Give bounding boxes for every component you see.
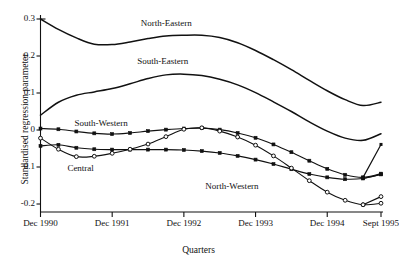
- series-label-central: Central: [67, 164, 94, 173]
- series-line: [41, 74, 382, 140]
- data-point-marker: [308, 159, 311, 162]
- data-point-marker: [254, 143, 258, 147]
- data-point-marker: [236, 154, 239, 157]
- series-label-north-western: North-Western: [205, 182, 258, 191]
- data-point-marker: [57, 147, 61, 151]
- data-point-marker: [379, 201, 383, 205]
- data-point-marker: [218, 129, 222, 133]
- data-point-marker: [272, 154, 276, 158]
- data-point-marker: [254, 158, 257, 161]
- series-label-north-eastern: North-Eastern: [141, 19, 192, 28]
- data-point-marker: [344, 178, 347, 181]
- data-point-marker: [361, 203, 365, 207]
- data-point-marker: [164, 128, 167, 131]
- x-tick-label: Dec 1992: [166, 219, 201, 228]
- data-point-marker: [93, 148, 96, 151]
- data-point-marker: [308, 173, 311, 176]
- series-central: [39, 143, 383, 180]
- data-point-marker: [164, 148, 167, 151]
- data-point-marker: [75, 146, 78, 149]
- data-point-marker: [75, 130, 78, 133]
- data-point-marker: [129, 131, 132, 134]
- data-point-marker: [74, 155, 78, 159]
- data-point-marker: [307, 179, 311, 183]
- data-point-marker: [236, 135, 240, 139]
- data-point-marker: [147, 148, 150, 151]
- data-point-marker: [362, 177, 365, 180]
- data-point-marker: [272, 143, 275, 146]
- y-tick-label: 0.3: [8, 14, 35, 23]
- data-point-marker: [272, 163, 275, 166]
- data-point-marker: [326, 167, 329, 170]
- data-point-marker: [57, 128, 60, 131]
- data-point-marker: [39, 136, 43, 140]
- y-tick-label: -0.1: [8, 162, 35, 171]
- series-south-eastern: [41, 74, 382, 140]
- y-tick-label: 0: [8, 125, 35, 134]
- y-axis-title: Standardised regression parameter: [20, 39, 30, 199]
- data-point-marker: [110, 151, 114, 155]
- x-tick-label: Dec 1993: [238, 219, 273, 228]
- x-tick-label: Sept 1995: [363, 219, 399, 228]
- data-point-marker: [236, 131, 239, 134]
- data-point-marker: [254, 136, 257, 139]
- data-point-marker: [200, 126, 204, 130]
- data-point-marker: [93, 132, 96, 135]
- data-point-marker: [379, 195, 383, 199]
- data-point-marker: [39, 127, 42, 130]
- data-point-marker: [92, 154, 96, 158]
- series-tail-line: [363, 174, 381, 178]
- data-point-marker: [39, 144, 42, 147]
- data-point-marker: [128, 147, 132, 151]
- series-line: [41, 145, 382, 180]
- x-tick-label: Dec 1991: [95, 219, 130, 228]
- series-tail-line: [363, 144, 381, 177]
- data-point-marker: [344, 173, 347, 176]
- data-point-marker: [218, 151, 221, 154]
- data-point-marker: [182, 127, 186, 131]
- x-tick-label: Dec 1994: [310, 219, 345, 228]
- y-tick-label: -0.2: [8, 199, 35, 208]
- data-point-marker: [200, 150, 203, 153]
- series-label-south-eastern: South-Eastern: [137, 57, 188, 66]
- x-axis-title: Quarters: [0, 245, 397, 255]
- data-point-marker: [164, 135, 168, 139]
- data-point-marker: [343, 198, 347, 202]
- data-point-marker: [111, 148, 114, 151]
- y-tick-label: 0.2: [8, 51, 35, 60]
- y-tick-label: 0.1: [8, 88, 35, 97]
- data-point-marker: [380, 143, 383, 146]
- data-point-marker: [57, 143, 60, 146]
- data-point-marker: [325, 190, 329, 194]
- series-label-south-western: South-Western: [75, 119, 128, 128]
- data-point-marker: [326, 176, 329, 179]
- data-point-marker: [289, 166, 293, 170]
- data-point-marker: [147, 130, 150, 133]
- data-point-marker: [146, 142, 150, 146]
- data-point-marker: [182, 148, 185, 151]
- data-point-marker: [290, 151, 293, 154]
- data-point-marker: [111, 133, 114, 136]
- data-point-marker: [380, 173, 383, 176]
- x-tick-label: Dec 1990: [23, 219, 58, 228]
